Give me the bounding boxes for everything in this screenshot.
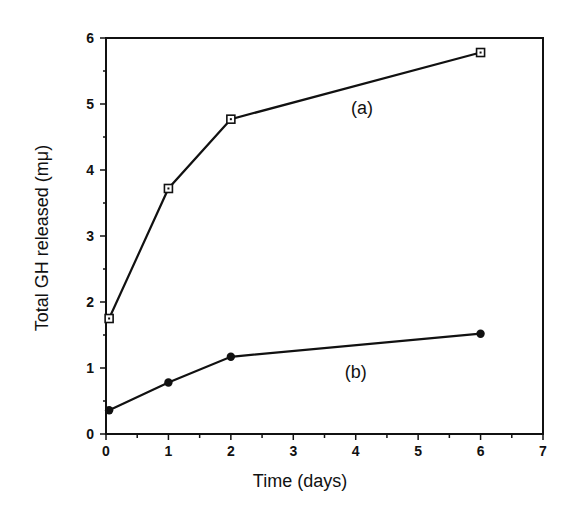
circle-marker xyxy=(476,329,484,337)
y-tick-label: 3 xyxy=(86,228,94,244)
x-tick-label: 0 xyxy=(102,443,110,459)
data-series: (a)(b) xyxy=(105,49,485,415)
y-tick-label: 5 xyxy=(86,96,94,112)
circle-marker xyxy=(105,406,113,414)
series-line xyxy=(109,334,480,411)
plot-frame xyxy=(106,38,543,434)
circle-marker xyxy=(227,353,235,361)
y-tick-label: 6 xyxy=(86,30,94,46)
y-tick-label: 1 xyxy=(86,360,94,376)
x-axis: 01234567 xyxy=(102,434,547,459)
series-label: (a) xyxy=(351,98,373,118)
square-marker-dot xyxy=(230,118,232,120)
x-tick-label: 5 xyxy=(414,443,422,459)
series-label: (b) xyxy=(345,362,367,382)
y-axis: 0123456 xyxy=(86,30,106,442)
square-marker-dot xyxy=(108,318,110,320)
square-marker-dot xyxy=(167,187,169,189)
square-marker-dot xyxy=(480,52,482,54)
series-b: (b) xyxy=(105,329,485,414)
y-tick-label: 4 xyxy=(86,162,94,178)
x-tick-label: 6 xyxy=(477,443,485,459)
circle-marker xyxy=(164,378,172,386)
x-axis-title: Time (days) xyxy=(253,471,347,491)
y-axis-title: Total GH released (mμ) xyxy=(32,145,52,331)
y-tick-label: 2 xyxy=(86,294,94,310)
x-tick-label: 2 xyxy=(227,443,235,459)
x-tick-label: 7 xyxy=(539,443,547,459)
line-chart: 01234567 0123456 (a)(b) Time (days) Tota… xyxy=(0,0,576,510)
x-tick-label: 3 xyxy=(289,443,297,459)
x-tick-label: 1 xyxy=(165,443,173,459)
plot-border xyxy=(106,38,543,434)
series-a: (a) xyxy=(105,49,484,323)
y-tick-label: 0 xyxy=(86,426,94,442)
x-tick-label: 4 xyxy=(352,443,360,459)
